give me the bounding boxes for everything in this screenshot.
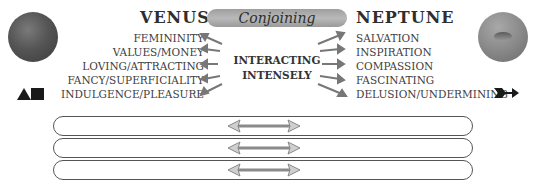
neptune-keyword: SALVATION (356, 31, 508, 45)
venus-keyword: INDULGENCE/PLEASURE (61, 87, 204, 101)
neptune-keyword: DELUSION/UNDERMINING (356, 87, 508, 101)
double-arrow-icon (228, 163, 300, 177)
triangle-square-icon (17, 85, 47, 101)
neptune-title: NEPTUNE (356, 8, 455, 27)
venus-keyword: FANCY/SUPERFICIALITY (61, 73, 204, 87)
neptune-keyword: FASCINATING (356, 73, 508, 87)
double-arrow-icon (228, 119, 300, 133)
venus-title: VENUS (140, 8, 210, 27)
interaction-label: INTERACTING INTENSELY (218, 53, 336, 83)
interaction-label-line2: INTENSELY (218, 68, 336, 83)
neptune-keyword-list: SALVATION INSPIRATION COMPASSION FASCINA… (356, 31, 508, 101)
fletched-arrow-icon (494, 86, 520, 100)
venus-keyword: VALUES/MONEY (61, 45, 204, 59)
neptune-keyword: INSPIRATION (356, 45, 508, 59)
neptune-keyword: COMPASSION (356, 59, 508, 73)
venus-keyword: FEMININITY (61, 31, 204, 45)
venus-keyword-list: FEMININITY VALUES/MONEY LOVING/ATTRACTIN… (61, 31, 204, 101)
venus-keyword: LOVING/ATTRACTING (61, 59, 204, 73)
aspect-pill: Conjoining (207, 9, 347, 27)
double-arrow-icon (228, 141, 300, 155)
venus-planet-image (8, 12, 58, 62)
interaction-label-line1: INTERACTING (218, 53, 336, 68)
